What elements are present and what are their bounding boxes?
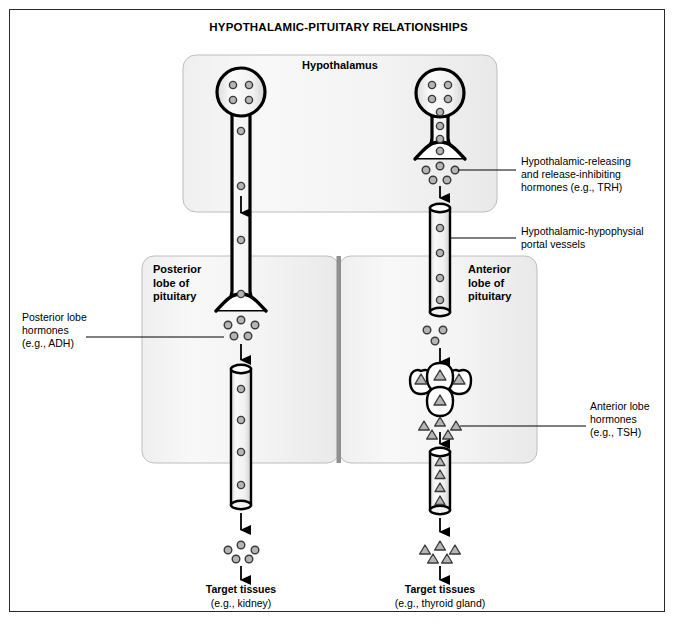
posterior-systemic-vessel — [231, 365, 251, 509]
callout-portal-vessels-line-2: portal vessels — [521, 238, 673, 251]
posterior-target-granules — [224, 541, 259, 563]
posterior-lobe-line-1: Posterior — [153, 263, 201, 277]
target-tissue-left-title: Target tissues — [141, 583, 341, 597]
anterior-target-triangles — [420, 541, 461, 563]
callout-posterior-hormones-line-1: Posterior lobe — [22, 311, 142, 324]
posterior-lobe-line-2: lobe of — [153, 277, 201, 291]
callout-posterior-hormones-line-3: (e.g., ADH) — [22, 337, 142, 350]
callout-posterior-hormones: Posterior lobe hormones (e.g., ADH) — [22, 311, 142, 350]
callout-anterior-hormones: Anterior lobe hormones (e.g., TSH) — [590, 400, 675, 439]
callout-releasing-hormones-line-1: Hypothalamic-releasing — [521, 155, 671, 168]
region-label-hypothalamus: Hypothalamus — [183, 59, 497, 71]
target-tissue-label-left: Target tissues (e.g., kidney) — [141, 583, 341, 610]
anterior-lobe-line-2: lobe of — [468, 277, 511, 291]
anterior-lobe-line-1: Anterior — [468, 263, 511, 277]
callout-anterior-hormones-line-2: hormones — [590, 413, 675, 426]
callout-releasing-hormones-line-2: and release-inhibiting — [521, 168, 671, 181]
callout-portal-vessels-line-1: Hypothalamic-hypophysial — [521, 225, 673, 238]
diagram-page: HYPOTHALAMIC-PITUITARY RELATIONSHIPS — [0, 0, 677, 624]
callout-anterior-hormones-line-1: Anterior lobe — [590, 400, 675, 413]
target-tissue-left-detail: (e.g., kidney) — [141, 597, 341, 611]
anterior-systemic-vessel — [430, 448, 450, 514]
pituitary-lobe-divider — [337, 256, 342, 463]
region-label-posterior-lobe: Posterior lobe of pituitary — [153, 263, 201, 304]
callout-posterior-hormones-line-2: hormones — [22, 324, 142, 337]
callout-portal-vessels: Hypothalamic-hypophysial portal vessels — [521, 225, 673, 251]
target-tissue-label-right: Target tissues (e.g., thyroid gland) — [340, 583, 540, 610]
portal-vessel — [430, 204, 450, 316]
callout-anterior-hormones-line-3: (e.g., TSH) — [590, 426, 675, 439]
anterior-lobe-line-3: pituitary — [468, 290, 511, 304]
callout-releasing-hormones: Hypothalamic-releasing and release-inhib… — [521, 155, 671, 194]
region-label-anterior-lobe: Anterior lobe of pituitary — [468, 263, 511, 304]
callout-releasing-hormones-line-3: hormones (e.g., TRH) — [521, 181, 671, 194]
target-tissue-right-detail: (e.g., thyroid gland) — [340, 597, 540, 611]
posterior-lobe-line-3: pituitary — [153, 290, 201, 304]
target-tissue-right-title: Target tissues — [340, 583, 540, 597]
